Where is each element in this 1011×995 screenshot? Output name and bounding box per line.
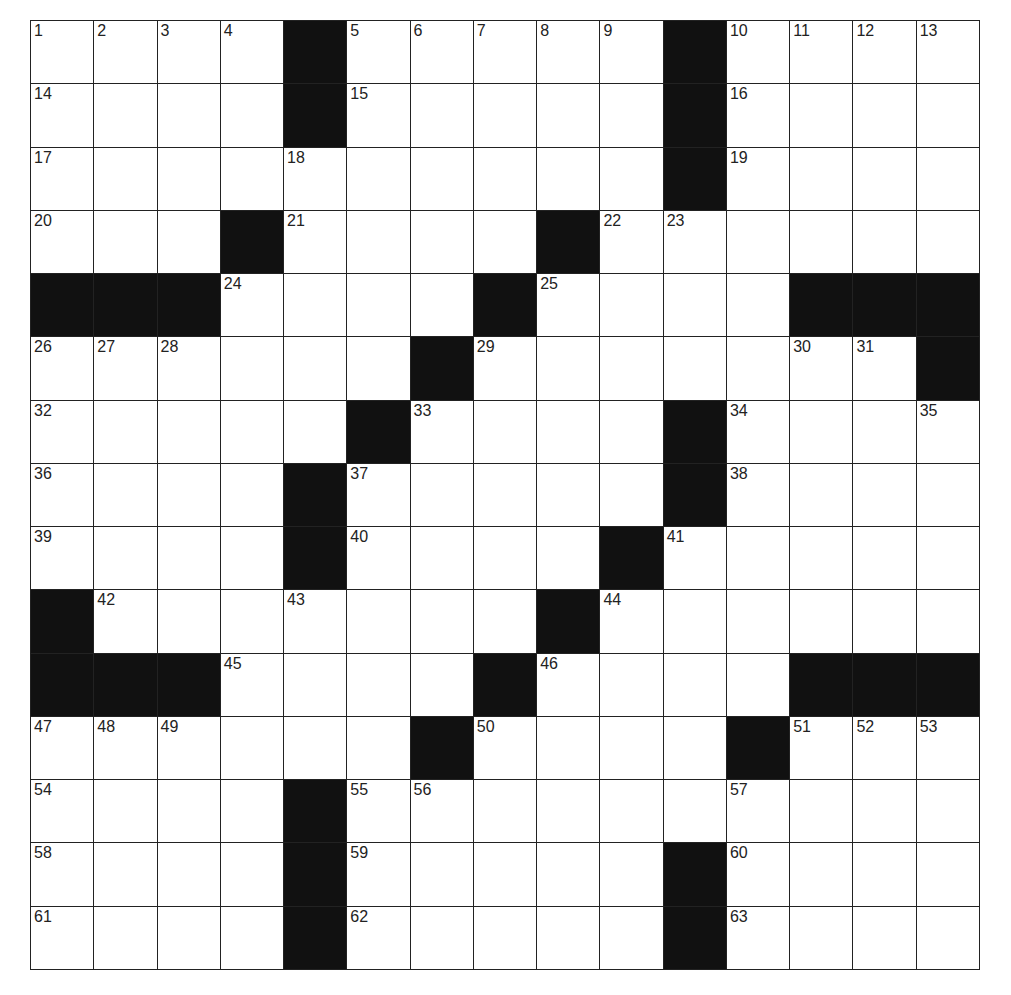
answer-cell[interactable] <box>347 590 409 652</box>
answer-cell[interactable]: 63 <box>727 907 789 969</box>
answer-cell[interactable]: 21 <box>284 211 346 273</box>
answer-cell[interactable]: 22 <box>600 211 662 273</box>
answer-cell[interactable]: 26 <box>31 337 93 399</box>
answer-cell[interactable]: 36 <box>31 464 93 526</box>
answer-cell[interactable]: 62 <box>347 907 409 969</box>
answer-cell[interactable]: 23 <box>664 211 726 273</box>
answer-cell[interactable] <box>347 148 409 210</box>
answer-cell[interactable] <box>347 717 409 779</box>
answer-cell[interactable] <box>221 337 283 399</box>
answer-cell[interactable] <box>600 907 662 969</box>
answer-cell[interactable] <box>917 780 979 842</box>
answer-cell[interactable] <box>537 907 599 969</box>
answer-cell[interactable]: 19 <box>727 148 789 210</box>
answer-cell[interactable] <box>221 84 283 146</box>
answer-cell[interactable]: 59 <box>347 843 409 905</box>
answer-cell[interactable]: 39 <box>31 527 93 589</box>
answer-cell[interactable] <box>537 527 599 589</box>
answer-cell[interactable] <box>600 843 662 905</box>
answer-cell[interactable]: 5 <box>347 21 409 83</box>
answer-cell[interactable] <box>158 590 220 652</box>
answer-cell[interactable]: 27 <box>94 337 156 399</box>
answer-cell[interactable]: 13 <box>917 21 979 83</box>
answer-cell[interactable]: 29 <box>474 337 536 399</box>
answer-cell[interactable]: 3 <box>158 21 220 83</box>
answer-cell[interactable]: 61 <box>31 907 93 969</box>
answer-cell[interactable]: 12 <box>853 21 915 83</box>
answer-cell[interactable]: 7 <box>474 21 536 83</box>
answer-cell[interactable] <box>853 843 915 905</box>
answer-cell[interactable] <box>221 401 283 463</box>
answer-cell[interactable]: 41 <box>664 527 726 589</box>
answer-cell[interactable] <box>790 907 852 969</box>
answer-cell[interactable] <box>790 527 852 589</box>
answer-cell[interactable] <box>411 274 473 336</box>
answer-cell[interactable] <box>537 84 599 146</box>
answer-cell[interactable] <box>474 211 536 273</box>
answer-cell[interactable] <box>94 780 156 842</box>
answer-cell[interactable] <box>537 780 599 842</box>
answer-cell[interactable]: 50 <box>474 717 536 779</box>
answer-cell[interactable]: 18 <box>284 148 346 210</box>
answer-cell[interactable]: 2 <box>94 21 156 83</box>
answer-cell[interactable] <box>474 590 536 652</box>
answer-cell[interactable] <box>221 780 283 842</box>
answer-cell[interactable] <box>474 527 536 589</box>
answer-cell[interactable] <box>94 148 156 210</box>
answer-cell[interactable] <box>411 464 473 526</box>
answer-cell[interactable] <box>411 527 473 589</box>
answer-cell[interactable]: 46 <box>537 654 599 716</box>
answer-cell[interactable]: 34 <box>727 401 789 463</box>
answer-cell[interactable] <box>221 843 283 905</box>
answer-cell[interactable] <box>537 717 599 779</box>
answer-cell[interactable] <box>158 907 220 969</box>
answer-cell[interactable] <box>284 337 346 399</box>
answer-cell[interactable]: 43 <box>284 590 346 652</box>
answer-cell[interactable] <box>790 211 852 273</box>
answer-cell[interactable] <box>94 211 156 273</box>
answer-cell[interactable] <box>411 907 473 969</box>
answer-cell[interactable] <box>284 401 346 463</box>
answer-cell[interactable]: 25 <box>537 274 599 336</box>
answer-cell[interactable] <box>474 84 536 146</box>
answer-cell[interactable] <box>537 843 599 905</box>
answer-cell[interactable] <box>158 843 220 905</box>
answer-cell[interactable] <box>411 590 473 652</box>
answer-cell[interactable]: 10 <box>727 21 789 83</box>
answer-cell[interactable] <box>917 464 979 526</box>
answer-cell[interactable] <box>853 590 915 652</box>
answer-cell[interactable] <box>600 401 662 463</box>
answer-cell[interactable] <box>727 211 789 273</box>
answer-cell[interactable] <box>790 401 852 463</box>
answer-cell[interactable] <box>917 843 979 905</box>
answer-cell[interactable] <box>347 274 409 336</box>
answer-cell[interactable] <box>94 843 156 905</box>
answer-cell[interactable] <box>727 654 789 716</box>
answer-cell[interactable]: 33 <box>411 401 473 463</box>
answer-cell[interactable] <box>221 464 283 526</box>
answer-cell[interactable] <box>853 148 915 210</box>
answer-cell[interactable] <box>537 337 599 399</box>
answer-cell[interactable] <box>221 527 283 589</box>
answer-cell[interactable] <box>94 401 156 463</box>
answer-cell[interactable] <box>94 907 156 969</box>
answer-cell[interactable] <box>917 527 979 589</box>
answer-cell[interactable] <box>158 401 220 463</box>
answer-cell[interactable]: 49 <box>158 717 220 779</box>
answer-cell[interactable] <box>474 843 536 905</box>
answer-cell[interactable] <box>664 590 726 652</box>
answer-cell[interactable] <box>411 84 473 146</box>
answer-cell[interactable]: 1 <box>31 21 93 83</box>
answer-cell[interactable]: 48 <box>94 717 156 779</box>
answer-cell[interactable]: 40 <box>347 527 409 589</box>
answer-cell[interactable] <box>600 337 662 399</box>
answer-cell[interactable] <box>853 780 915 842</box>
answer-cell[interactable] <box>917 590 979 652</box>
answer-cell[interactable] <box>411 211 473 273</box>
answer-cell[interactable] <box>221 148 283 210</box>
answer-cell[interactable] <box>600 464 662 526</box>
answer-cell[interactable] <box>94 84 156 146</box>
answer-cell[interactable]: 16 <box>727 84 789 146</box>
answer-cell[interactable]: 60 <box>727 843 789 905</box>
answer-cell[interactable] <box>917 148 979 210</box>
